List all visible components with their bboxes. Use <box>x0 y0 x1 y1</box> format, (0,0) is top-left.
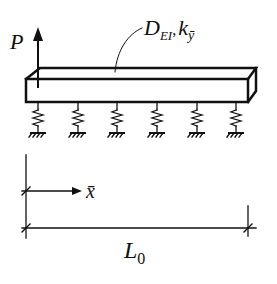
spring-icon <box>227 102 243 137</box>
spring-icon <box>108 102 124 137</box>
label-leader-line <box>115 28 142 72</box>
dimension-lines <box>22 155 256 238</box>
spring-icon <box>69 102 85 137</box>
beam-property-label: DEI,kȳ <box>143 15 195 43</box>
spring-icon <box>148 102 164 137</box>
beam-diagram: P DEI,kȳ x̄ L0 <box>0 0 277 284</box>
coordinate-label: x̄ <box>85 180 95 202</box>
length-label: L0 <box>123 237 145 267</box>
spring-row <box>29 102 243 137</box>
spring-icon <box>188 102 204 137</box>
spring-icon <box>29 102 45 137</box>
beam-front-face <box>26 79 248 102</box>
beam-top-face <box>26 68 256 79</box>
x-axis-arrow-icon <box>72 187 82 195</box>
load-label: P <box>9 29 23 54</box>
